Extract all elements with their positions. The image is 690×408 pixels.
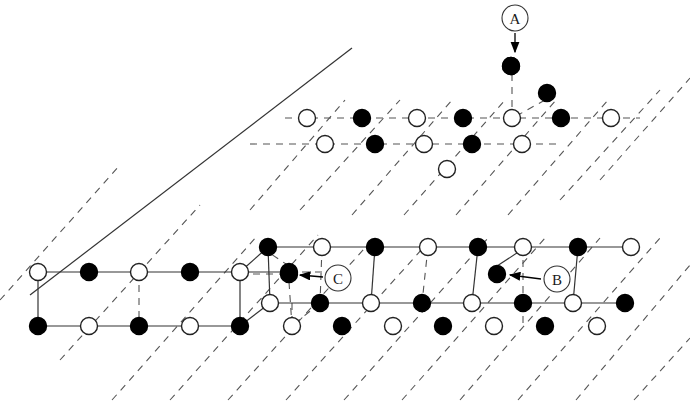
upper-diagonal-0 [250, 100, 345, 210]
lattice-diagram: ABC [0, 0, 690, 408]
lower-plane-site [232, 318, 249, 335]
lower-plane-site [363, 295, 380, 312]
callout-label-c: C [333, 271, 343, 287]
lower-plane-site [470, 239, 487, 256]
upper-plane-site [409, 110, 426, 127]
lower-diagonal-2 [112, 235, 258, 400]
lower-plane-site [284, 318, 301, 335]
lower-plane-site [312, 295, 329, 312]
upper-plane-site [553, 110, 570, 127]
lower-plane-site [435, 318, 452, 335]
lower-plane-site [420, 239, 437, 256]
upper-extra-connector [518, 100, 545, 115]
callout-target-site [281, 266, 298, 283]
solid-edge-left-long [30, 48, 352, 295]
lower-plane-site [182, 318, 199, 335]
lower-plane-site [537, 318, 554, 335]
lower-diagonal-5 [286, 238, 432, 400]
lower-diagonal-0 [0, 165, 120, 300]
lower-plane-site [486, 318, 503, 335]
callout-target-site [503, 58, 520, 75]
lower-diagonal-6 [344, 238, 488, 400]
lower-plane-site [81, 318, 98, 335]
upper-plane-site [455, 110, 472, 127]
figure-canvas: ABC [0, 0, 690, 408]
callout-a[interactable]: A [502, 5, 528, 52]
upper-diagonal-6 [560, 90, 660, 200]
upper-plane-site [439, 161, 456, 178]
lower-plane-site [131, 318, 148, 335]
upper-plane-site [539, 85, 556, 102]
lower-plane-site [515, 295, 532, 312]
lower-plane-site [30, 264, 47, 281]
lower-plane-site [589, 318, 606, 335]
lower-plane-site [81, 264, 98, 281]
lower-diagonal-8 [460, 238, 600, 400]
dashed-lattice-lines [0, 74, 690, 400]
lower-plane-site [182, 264, 199, 281]
cropped-top-text [130, 0, 560, 5]
callout-label-a: A [510, 11, 521, 27]
lower-plane-site [570, 239, 587, 256]
lower-plane-site [367, 239, 384, 256]
lower-diagonal-1 [60, 205, 200, 360]
lower-plane-site [30, 318, 47, 335]
lower-plane-site [464, 295, 481, 312]
lower-plane-site [334, 318, 351, 335]
lower-plane-site [623, 239, 640, 256]
lower-plane-site [262, 295, 279, 312]
callout-arrow-b [510, 275, 541, 279]
lower-plane-site [260, 239, 277, 256]
upper-plane-site [416, 136, 433, 153]
upper-plane-site [514, 136, 531, 153]
lower-plane-site [131, 264, 148, 281]
callout-target-site [489, 266, 506, 283]
upper-plane-site [354, 110, 371, 127]
upper-plane-site [464, 136, 481, 153]
callout-arrow-c [300, 275, 323, 277]
callout-c[interactable]: C [300, 265, 351, 291]
upper-plane-site [367, 136, 384, 153]
upper-plane-site [504, 110, 521, 127]
lower-plane-site [515, 239, 532, 256]
upper-plane-site [603, 110, 620, 127]
callout-b[interactable]: B [510, 266, 570, 292]
lower-plane-site [414, 295, 431, 312]
callout-label-b: B [552, 272, 562, 288]
lower-diagonal-11 [634, 338, 690, 400]
lower-plane-site [385, 318, 402, 335]
lower-plane-site [232, 264, 249, 281]
upper-plane-site [317, 136, 334, 153]
lower-plane-site [617, 295, 634, 312]
lower-plane-site [314, 239, 331, 256]
lower-plane-site [565, 295, 582, 312]
upper-diagonal-7 [600, 78, 690, 180]
upper-plane-site [299, 110, 316, 127]
lattice-sites [30, 58, 640, 335]
